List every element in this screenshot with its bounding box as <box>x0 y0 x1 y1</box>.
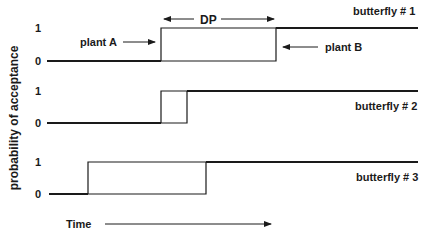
plant-a-curve <box>88 162 206 194</box>
plant-b-curve <box>88 162 206 194</box>
tick-1: 1 <box>35 85 41 97</box>
plant-a-curve <box>161 28 418 61</box>
plant-b-curve <box>161 28 418 61</box>
series-label: butterfly # 3 <box>356 171 418 183</box>
plant-b-label: plant B <box>325 41 362 53</box>
y-axis-label: probability of acceptance <box>7 45 21 190</box>
panel-butterfly-2: 1 0 butterfly # 2 <box>35 85 418 129</box>
tick-0: 0 <box>35 117 41 129</box>
tick-1: 1 <box>35 156 41 168</box>
panel-butterfly-1: 1 0 butterfly # 1 plant A plant B DP <box>35 5 418 67</box>
plant-a-curve <box>161 91 187 123</box>
tick-0: 0 <box>35 55 41 67</box>
panel-butterfly-3: 1 0 butterfly # 3 <box>35 156 418 200</box>
x-axis-label: Time <box>66 218 91 230</box>
plant-a-label: plant A <box>80 36 117 48</box>
series-label: butterfly # 2 <box>355 100 417 112</box>
plant-b-curve <box>161 91 187 123</box>
acceptance-diagram: probability of acceptance 1 0 butterfly … <box>0 0 431 237</box>
tick-1: 1 <box>35 22 41 34</box>
tick-0: 0 <box>35 188 41 200</box>
dp-label: DP <box>200 13 217 27</box>
series-label: butterfly # 1 <box>353 5 415 17</box>
